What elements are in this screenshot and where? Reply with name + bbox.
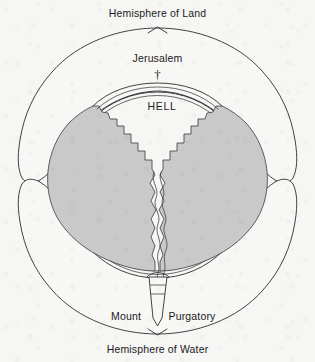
label-mount: Mount (111, 310, 141, 322)
label-hemisphere-of-water: Hemisphere of Water (107, 343, 209, 355)
cosmology-diagram: † Hemisphere of Land Jerusalem HELL Moun… (0, 0, 315, 362)
label-jerusalem: Jerusalem (133, 52, 183, 64)
diagram-canvas: † Hemisphere of Land Jerusalem HELL Moun… (0, 0, 315, 362)
jerusalem-cross-icon: † (154, 67, 161, 82)
label-hell: HELL (147, 100, 176, 112)
label-purgatory: Purgatory (169, 310, 216, 322)
label-hemisphere-of-land: Hemisphere of Land (109, 7, 206, 19)
